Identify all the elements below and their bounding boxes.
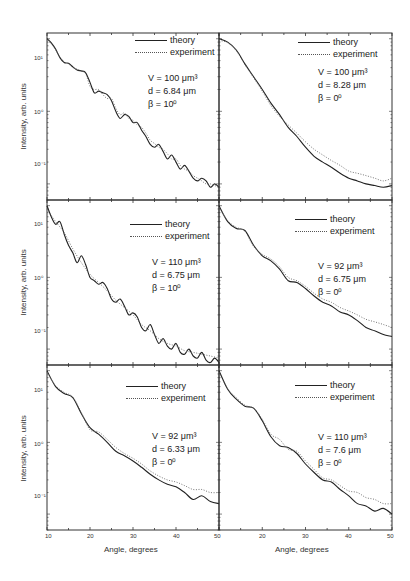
theory-curve xyxy=(219,39,392,188)
param-volume: V = 92 μm³ xyxy=(152,430,200,443)
param-volume: V = 92 μm³ xyxy=(318,260,366,273)
legend-bottom-right: theory experiment xyxy=(295,379,375,403)
legend-middle-right: theory experiment xyxy=(295,213,375,237)
experiment-curve xyxy=(47,40,219,187)
y-tick-mid-2: 10⁰ xyxy=(34,274,43,281)
x-tick-right-30: 30 xyxy=(302,533,309,539)
legend-experiment-label: experiment xyxy=(330,226,375,236)
y-axis-label-top: Intensity, arb. units xyxy=(19,83,28,150)
param-volume: V = 100 μm³ xyxy=(148,72,197,85)
params-bottom-left: V = 92 μm³ d = 6.33 μm β = 0⁰ xyxy=(152,430,200,469)
experiment-swatch xyxy=(126,398,158,399)
params-top-right: V = 100 μm³ d = 8.28 μm β = 0⁰ xyxy=(318,66,367,105)
x-tick-left-50: 50 xyxy=(214,533,221,539)
theory-swatch xyxy=(298,42,330,43)
legend-bottom-left: theory experiment xyxy=(126,380,206,404)
params-top-left: V = 100 μm³ d = 6.84 μm β = 10⁰ xyxy=(148,72,197,111)
x-tick-right-20: 20 xyxy=(259,533,266,539)
legend-theory-label: theory xyxy=(161,381,186,391)
legend-experiment-label: experiment xyxy=(333,49,378,59)
y-tick-mid-3: 10⁻¹ xyxy=(34,327,46,334)
param-diameter: d = 6.75 μm xyxy=(318,273,366,286)
y-tick-top-1: 10¹ xyxy=(34,55,43,61)
theory-swatch xyxy=(295,385,327,386)
legend-middle-left: theory experiment xyxy=(130,218,210,242)
param-beta: β = 0⁰ xyxy=(318,286,366,299)
legend-theory-label: theory xyxy=(330,214,355,224)
legend-theory-label: theory xyxy=(330,380,355,390)
experiment-swatch xyxy=(298,54,330,55)
legend-experiment-label: experiment xyxy=(330,392,375,402)
y-tick-mid-1: 10¹ xyxy=(34,221,43,227)
y-tick-bot-2: 10⁰ xyxy=(34,440,43,447)
y-tick-top-2: 10⁰ xyxy=(34,108,43,115)
theory-curve xyxy=(47,39,219,188)
param-diameter: d = 6.75 μm xyxy=(152,269,201,282)
y-tick-bot-1: 10¹ xyxy=(34,387,43,393)
params-middle-right: V = 92 μm³ d = 6.75 μm β = 0⁰ xyxy=(318,260,366,299)
x-axis-label-left: Angle, degrees xyxy=(104,545,158,554)
x-tick-left-40: 40 xyxy=(173,533,180,539)
param-diameter: d = 6.84 μm xyxy=(148,85,197,98)
experiment-swatch xyxy=(295,231,327,232)
param-diameter: d = 8.28 μm xyxy=(318,79,367,92)
y-tick-top-3: 10⁻¹ xyxy=(34,160,46,167)
x-axis-label-right: Angle, degrees xyxy=(275,545,329,554)
param-volume: V = 110 μm³ xyxy=(152,256,201,269)
param-beta: β = 0⁰ xyxy=(318,457,367,470)
y-axis-label-middle: Intensity, arb. units xyxy=(19,249,28,316)
y-tick-bot-3: 10⁻¹ xyxy=(34,492,46,499)
x-tick-right-50: 50 xyxy=(387,533,394,539)
theory-swatch xyxy=(295,219,327,220)
x-tick-left-10: 10 xyxy=(45,533,52,539)
param-beta: β = 0⁰ xyxy=(318,92,367,105)
experiment-swatch xyxy=(295,397,327,398)
x-tick-right-40: 40 xyxy=(345,533,352,539)
legend-top-left: theory experiment xyxy=(135,34,215,58)
experiment-swatch xyxy=(130,236,162,237)
legend-theory-label: theory xyxy=(165,219,190,229)
theory-swatch xyxy=(135,40,167,41)
x-tick-left-30: 30 xyxy=(130,533,137,539)
param-diameter: d = 7.6 μm xyxy=(318,444,367,457)
legend-top-right: theory experiment xyxy=(298,36,378,60)
theory-swatch xyxy=(126,386,158,387)
experiment-swatch xyxy=(135,52,167,53)
params-bottom-right: V = 110 μm³ d = 7.6 μm β = 0⁰ xyxy=(318,431,367,470)
legend-experiment-label: experiment xyxy=(161,393,206,403)
param-diameter: d = 6.33 μm xyxy=(152,443,200,456)
experiment-curve xyxy=(219,40,392,181)
legend-experiment-label: experiment xyxy=(165,231,210,241)
param-volume: V = 110 μm³ xyxy=(318,431,367,444)
param-volume: V = 100 μm³ xyxy=(318,66,367,79)
panel-frame xyxy=(47,33,219,200)
legend-theory-label: theory xyxy=(333,37,358,47)
param-beta: β = 0⁰ xyxy=(152,456,200,469)
param-beta: β = 10⁰ xyxy=(152,282,201,295)
legend-experiment-label: experiment xyxy=(170,47,215,57)
theory-swatch xyxy=(130,224,162,225)
params-middle-left: V = 110 μm³ d = 6.75 μm β = 10⁰ xyxy=(152,256,201,295)
x-tick-left-20: 20 xyxy=(87,533,94,539)
y-axis-label-bottom: Intensity, arb. units xyxy=(19,415,28,482)
param-beta: β = 10⁰ xyxy=(148,98,197,111)
legend-theory-label: theory xyxy=(170,35,195,45)
